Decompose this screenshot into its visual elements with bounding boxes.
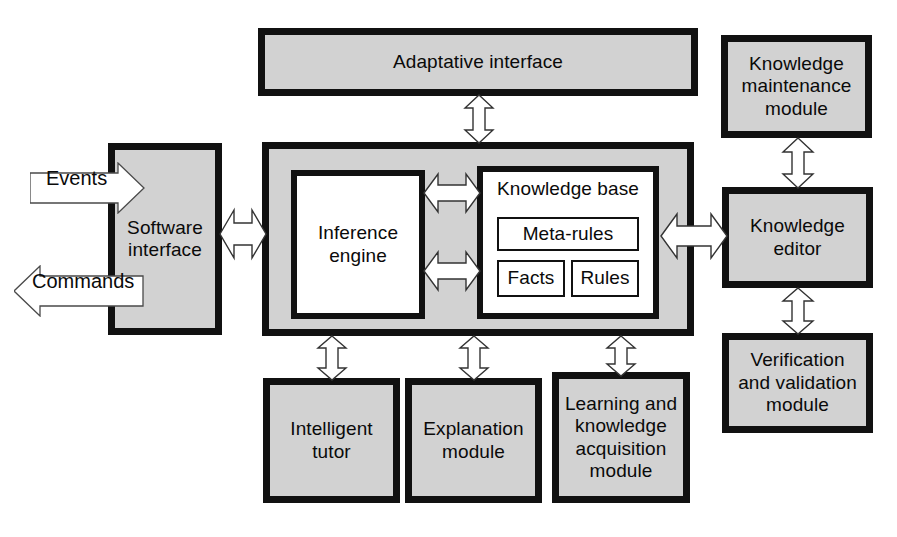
node-label: Intelligent tutor bbox=[286, 418, 376, 463]
node-label: Learning and knowledge acquisition modul… bbox=[561, 393, 681, 483]
connector-core-to-intelligent-tutor bbox=[316, 335, 348, 381]
node-label: Knowledge maintenance module bbox=[738, 53, 856, 120]
connector-inference-engine-to-knowledge-base-upper bbox=[423, 172, 481, 214]
connector-core-to-knowledge-editor bbox=[660, 211, 728, 261]
node-label: Inference engine bbox=[314, 222, 402, 267]
node-label: Explanation module bbox=[419, 418, 527, 463]
node-learning-acquisition-module[interactable]: Learning and knowledge acquisition modul… bbox=[552, 372, 690, 503]
io-label-events: Events bbox=[46, 167, 107, 190]
node-explanation-module[interactable]: Explanation module bbox=[405, 378, 542, 503]
node-intelligent-tutor[interactable]: Intelligent tutor bbox=[263, 378, 400, 503]
node-meta-rules[interactable]: Meta-rules bbox=[497, 217, 639, 251]
node-label: Verification and validation module bbox=[734, 349, 861, 416]
node-label: Facts bbox=[504, 267, 559, 289]
node-rules[interactable]: Rules bbox=[571, 260, 639, 297]
connector-core-to-explanation-module bbox=[458, 335, 490, 381]
connector-core-to-learning-module bbox=[605, 335, 637, 377]
node-label: Software interface bbox=[123, 217, 207, 262]
node-label: Adaptative interface bbox=[389, 51, 567, 73]
node-facts[interactable]: Facts bbox=[497, 260, 565, 297]
connector-adaptative-interface-to-core bbox=[463, 94, 495, 144]
node-adaptative-interface[interactable]: Adaptative interface bbox=[258, 28, 698, 96]
node-label: Rules bbox=[576, 267, 633, 289]
connector-knowledge-maintenance-to-editor bbox=[781, 137, 815, 189]
node-verification-validation-module[interactable]: Verification and validation module bbox=[722, 333, 873, 433]
node-inference-engine[interactable]: Inference engine bbox=[291, 170, 425, 319]
knowledge-base-title: Knowledge base bbox=[483, 178, 653, 200]
node-knowledge-base[interactable]: Knowledge base Meta-rules Facts Rules bbox=[477, 166, 659, 319]
connector-inference-engine-to-knowledge-base-lower bbox=[423, 250, 481, 292]
diagram-canvas: Adaptative interface Software interface … bbox=[0, 0, 897, 537]
node-knowledge-editor[interactable]: Knowledge editor bbox=[722, 187, 873, 288]
node-label: Knowledge editor bbox=[746, 215, 849, 260]
connector-knowledge-editor-to-verification bbox=[781, 287, 815, 335]
connector-software-interface-to-core bbox=[219, 206, 267, 262]
node-label: Meta-rules bbox=[519, 223, 618, 245]
node-knowledge-maintenance-module[interactable]: Knowledge maintenance module bbox=[721, 35, 872, 138]
io-label-commands: Commands bbox=[32, 270, 134, 293]
